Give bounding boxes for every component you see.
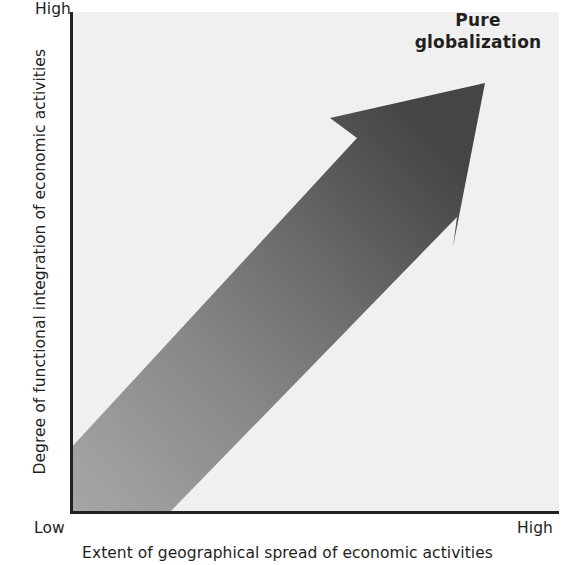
x-axis-title: Extent of geographical spread of economi… (0, 546, 575, 562)
y-axis-line (70, 12, 73, 514)
y-axis-title: Degree of functional integration of econ… (33, 12, 49, 512)
annotation-line-2: globalization (398, 31, 558, 53)
x-axis-high-label: High (517, 521, 553, 537)
annotation-line-1: Pure (398, 9, 558, 31)
x-axis-low-label: Low (34, 521, 65, 537)
globalization-diagram: High Low High Degree of functional integ… (0, 0, 575, 565)
globalization-arrow (72, 12, 559, 512)
pure-globalization-annotation: Pure globalization (398, 9, 558, 54)
x-axis-line (70, 511, 559, 514)
plot-area (72, 12, 559, 512)
